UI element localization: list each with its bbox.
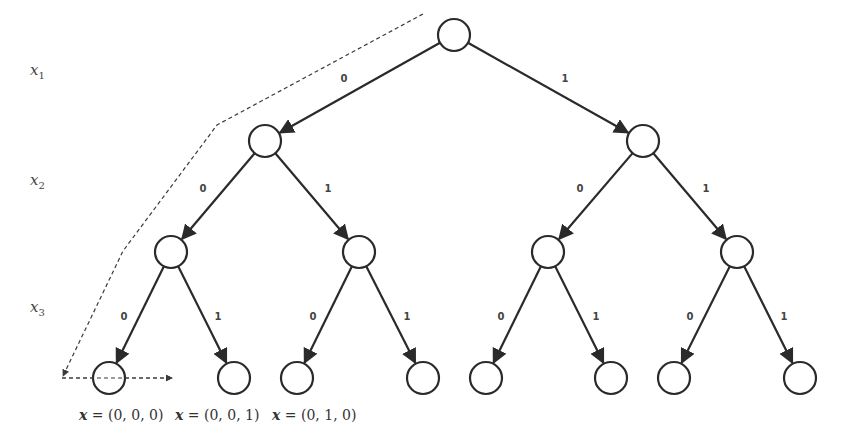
edge-label: 1 — [325, 183, 332, 194]
node-root — [438, 19, 470, 51]
leaf-labels: x = (0, 0, 0)x = (0, 0, 1)x = (0, 1, 0) — [78, 407, 356, 423]
node-l011 — [407, 362, 439, 394]
edge-label: 0 — [200, 183, 207, 194]
depth-first-path-arrow — [63, 14, 423, 376]
edge-label: 0 — [341, 73, 348, 84]
edge-label: 1 — [781, 311, 788, 322]
node-n10 — [532, 236, 564, 268]
edge-n0-n01 — [275, 153, 348, 239]
node-n00 — [155, 236, 187, 268]
edge-root-n1 — [468, 43, 628, 133]
leaf-label: x = (0, 1, 0) — [271, 407, 356, 423]
node-l110 — [658, 362, 690, 394]
edge-label: 1 — [703, 183, 710, 194]
edge-label: 1 — [593, 311, 600, 322]
node-l100 — [470, 362, 502, 394]
node-n0 — [249, 125, 281, 157]
leaf-label: x = (0, 0, 0) — [78, 407, 163, 423]
edge-label: 0 — [577, 183, 584, 194]
edge-n1-n11 — [653, 153, 726, 239]
edge-label: 0 — [687, 311, 694, 322]
node-n11 — [721, 236, 753, 268]
node-l001 — [218, 362, 250, 394]
edge-label: 1 — [215, 311, 222, 322]
traversal-path — [62, 14, 423, 378]
edge-label: 0 — [121, 311, 128, 322]
edge-n0-n00 — [182, 153, 255, 239]
variable-label-x3: x3 — [30, 298, 45, 318]
edge-n1-n10 — [559, 153, 633, 239]
edge-root-n0 — [280, 43, 440, 133]
node-l010 — [281, 362, 313, 394]
edge-labels: 01010101010101 — [121, 73, 788, 322]
binary-decision-tree: x1x2x3 01010101010101 x = (0, 0, 0)x = (… — [0, 0, 846, 445]
node-l101 — [595, 362, 627, 394]
node-l111 — [784, 362, 816, 394]
node-n01 — [343, 236, 375, 268]
edge-label: 1 — [404, 311, 411, 322]
leaf-label: x = (0, 0, 1) — [174, 407, 259, 423]
edge-label: 0 — [498, 311, 505, 322]
tree-nodes — [62, 19, 816, 394]
node-n1 — [627, 125, 659, 157]
edge-label: 1 — [562, 73, 569, 84]
variable-label-x2: x2 — [30, 171, 45, 191]
variable-labels: x1x2x3 — [30, 61, 45, 318]
edge-label: 0 — [310, 311, 317, 322]
variable-label-x1: x1 — [30, 61, 45, 81]
